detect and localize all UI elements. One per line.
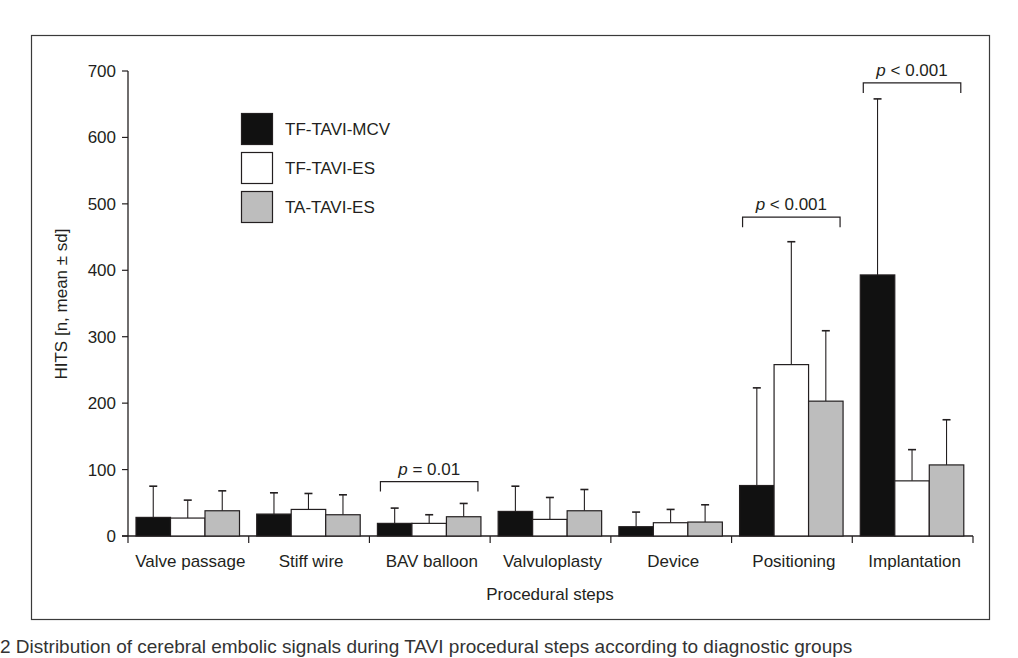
bar — [653, 523, 688, 536]
y-tick-label: 0 — [107, 527, 116, 546]
bar-group — [257, 493, 361, 536]
x-axis-label: Procedural steps — [486, 585, 614, 604]
significance-bracket: p < 0.001 — [863, 61, 961, 93]
bar-group — [377, 503, 481, 536]
bar — [446, 517, 481, 536]
figure-caption: 2 Distribution of cerebral embolic signa… — [0, 636, 1018, 656]
bar — [929, 465, 964, 536]
bar — [619, 527, 654, 536]
legend-swatch — [242, 192, 273, 223]
p-value-label: p = 0.01 — [397, 460, 460, 479]
x-tick-label: Positioning — [752, 552, 835, 571]
p-value-label: p < 0.001 — [875, 61, 947, 80]
y-tick-label: 300 — [88, 328, 116, 347]
bar — [412, 523, 447, 536]
bar — [533, 519, 568, 536]
bar — [498, 511, 532, 536]
bar-group — [498, 486, 602, 536]
bar — [860, 275, 895, 536]
bar — [809, 401, 844, 536]
legend-label: TA-TAVI-ES — [285, 198, 375, 217]
y-tick-label: 600 — [88, 128, 116, 147]
bracket-line — [380, 482, 478, 492]
bar-group — [860, 99, 964, 536]
significance-bracket: p < 0.001 — [743, 195, 841, 227]
x-tick-label: Valve passage — [135, 552, 245, 571]
bar — [136, 517, 171, 536]
y-axis-label: HITS [n, mean ± sd] — [52, 228, 71, 379]
y-tick-label: 500 — [88, 195, 116, 214]
legend-swatch — [242, 114, 273, 145]
bar-group — [740, 242, 844, 536]
x-tick-label: BAV balloon — [386, 552, 478, 571]
x-tick-label: Implantation — [868, 552, 961, 571]
legend-item: TF-TAVI-MCV — [242, 114, 391, 145]
bar — [171, 518, 206, 536]
y-axis: 0100200300400500600700 — [88, 62, 128, 546]
y-tick-label: 400 — [88, 261, 116, 280]
significance-bracket: p = 0.01 — [380, 460, 478, 492]
legend-item: TA-TAVI-ES — [242, 192, 375, 223]
legend-item: TF-TAVI-ES — [242, 153, 376, 184]
bar — [257, 514, 292, 536]
legend: TF-TAVI-MCVTF-TAVI-ESTA-TAVI-ES — [242, 114, 391, 223]
legend-label: TF-TAVI-ES — [285, 159, 375, 178]
x-axis: Valve passageStiff wireBAV balloonValvul… — [122, 536, 973, 571]
bar — [377, 523, 412, 536]
y-tick-label: 200 — [88, 394, 116, 413]
bar — [740, 486, 775, 536]
bar — [688, 522, 723, 536]
bar — [774, 365, 809, 536]
bracket-line — [743, 217, 841, 227]
y-tick-label: 100 — [88, 461, 116, 480]
bar-group — [136, 486, 240, 536]
legend-label: TF-TAVI-MCV — [285, 120, 391, 139]
x-tick-label: Valvuloplasty — [503, 552, 602, 571]
x-tick-label: Stiff wire — [279, 552, 344, 571]
y-tick-label: 700 — [88, 62, 116, 81]
p-value-label: p < 0.001 — [755, 195, 827, 214]
x-tick-label: Device — [647, 552, 699, 571]
bar — [895, 481, 930, 536]
bracket-line — [863, 83, 961, 93]
bar — [326, 515, 361, 536]
bar — [291, 509, 326, 536]
bar — [567, 511, 602, 536]
bar-group — [619, 505, 723, 536]
legend-swatch — [242, 153, 273, 184]
bar — [205, 511, 240, 536]
